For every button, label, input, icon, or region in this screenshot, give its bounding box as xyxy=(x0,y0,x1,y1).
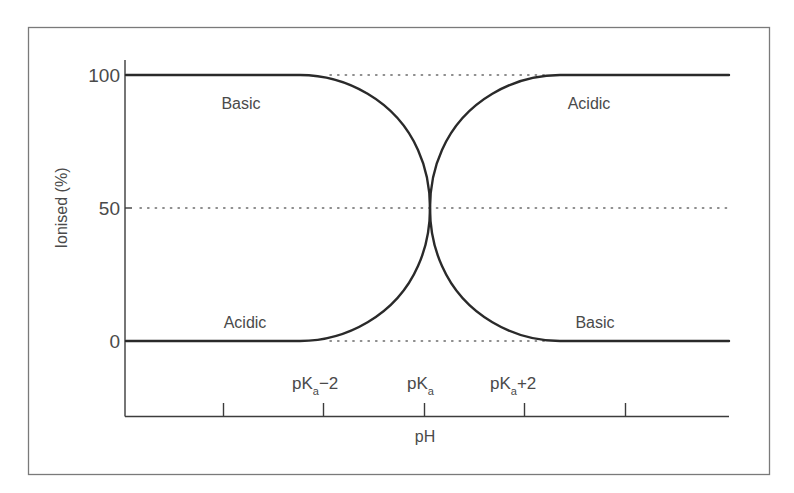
reference-lines xyxy=(140,75,729,341)
svg-text:pKa+2: pKa+2 xyxy=(490,374,536,397)
x-axis-label: pH xyxy=(415,428,435,445)
pk-text: pK xyxy=(490,374,511,393)
svg-text:pKa: pKa xyxy=(407,374,435,397)
y-axis-label: Ionised (%) xyxy=(53,168,70,249)
pk-text: pK xyxy=(292,374,313,393)
ionisation-chart: 100 50 0 Ionised (%) Basic Acidic Acidic… xyxy=(0,0,794,493)
svg-text:pKa−2: pKa−2 xyxy=(292,374,338,397)
plus-2-text: +2 xyxy=(517,374,536,393)
y-tick-label-50: 50 xyxy=(99,198,120,219)
annotation-basic-top: Basic xyxy=(221,95,260,112)
pk-text: pK xyxy=(407,374,428,393)
y-tick-label-0: 0 xyxy=(109,331,120,352)
subscript-a: a xyxy=(428,385,435,397)
annotation-acidic-bottom: Acidic xyxy=(224,314,267,331)
annotation-acidic-top: Acidic xyxy=(568,95,611,112)
x-tick-label-pka: pKa xyxy=(407,374,435,397)
x-tick-label-pka-minus-2: pKa−2 xyxy=(292,374,338,397)
annotation-basic-bottom: Basic xyxy=(575,314,614,331)
minus-2-text: −2 xyxy=(319,374,338,393)
x-tick-label-pka-plus-2: pKa+2 xyxy=(490,374,536,397)
chart-frame xyxy=(29,28,770,475)
y-tick-label-100: 100 xyxy=(88,65,120,86)
